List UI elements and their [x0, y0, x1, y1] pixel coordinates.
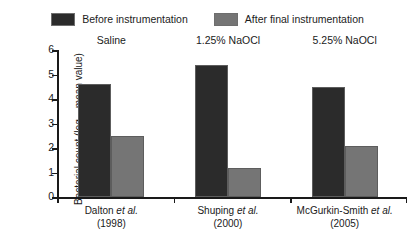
- x-tick-mark: [174, 197, 176, 203]
- bar-before-group-1: [78, 84, 111, 197]
- group-title-1: Saline: [97, 34, 126, 46]
- y-tick-label: 2: [34, 141, 54, 154]
- x-axis-label-1: Dalton et al.(1998): [85, 204, 138, 230]
- bar-before-group-3: [312, 87, 345, 197]
- y-axis-line: [57, 50, 59, 197]
- x-label-year: (2000): [197, 217, 258, 230]
- x-axis-label-2: Shuping et al.(2000): [197, 204, 258, 230]
- bar-after-group-3: [345, 146, 378, 197]
- x-tick-mark: [290, 197, 292, 203]
- x-label-study-name: Dalton: [85, 205, 117, 216]
- bacterial-count-bar-chart: Before instrumentation After final instr…: [0, 0, 415, 242]
- bar-after-group-2: [228, 168, 261, 197]
- x-tick-mark: [57, 197, 59, 203]
- legend-swatch-before-icon: [51, 13, 75, 26]
- x-axis-line: [57, 197, 407, 199]
- bar-after-group-1: [111, 136, 144, 197]
- chart-legend: Before instrumentation After final instr…: [0, 13, 415, 26]
- x-label-year: (1998): [85, 217, 138, 230]
- legend-item-before-instrumentation: Before instrumentation: [51, 13, 188, 26]
- legend-swatch-after-icon: [214, 13, 238, 26]
- x-label-et-al: et al.: [116, 205, 138, 216]
- x-label-study-name: McGurkin-Smith: [297, 205, 371, 216]
- group-title-3: 5.25% NaOCl: [313, 34, 377, 46]
- y-tick-label: 4: [34, 92, 54, 105]
- legend-label-before: Before instrumentation: [82, 14, 188, 25]
- y-tick-label: 1: [34, 166, 54, 179]
- legend-item-after-final-instrumentation: After final instrumentation: [214, 13, 364, 26]
- y-tick-label: 6: [34, 43, 54, 56]
- x-label-year: (2005): [297, 217, 393, 230]
- y-tick-label: 0: [34, 190, 54, 203]
- bar-before-group-2: [195, 65, 228, 197]
- y-tick-label: 3: [34, 117, 54, 130]
- x-label-study-name: Shuping: [197, 205, 236, 216]
- x-label-et-al: et al.: [237, 205, 259, 216]
- plot-area: 0123456 Saline1.25% NaOCl5.25% NaOCl Dal…: [57, 50, 407, 197]
- y-tick-label: 5: [34, 68, 54, 81]
- legend-label-after: After final instrumentation: [245, 14, 364, 25]
- group-title-2: 1.25% NaOCl: [196, 34, 260, 46]
- x-label-et-al: et al.: [371, 205, 393, 216]
- x-axis-label-3: McGurkin-Smith et al.(2005): [297, 204, 393, 230]
- x-tick-mark: [406, 197, 408, 203]
